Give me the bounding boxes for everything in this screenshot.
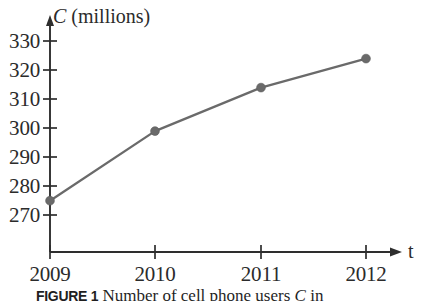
- x-axis-title: t: [408, 241, 414, 261]
- x-tick-label-2009: 2009: [10, 264, 90, 285]
- y-tick-label-270: 270: [0, 205, 40, 226]
- y-axis-title-variable: C: [53, 5, 66, 27]
- figure-caption-label: FIGURE 1: [36, 288, 98, 301]
- data-series-line: [50, 59, 366, 201]
- y-tick-label-320: 320: [0, 60, 40, 81]
- y-tick-label-290: 290: [0, 147, 40, 168]
- x-axis-arrowhead: [390, 248, 402, 257]
- figure-caption-variable: C: [295, 286, 306, 301]
- figure-caption: FIGURE 1 Number of cell phone users C in: [36, 286, 422, 301]
- figure-caption-text: Number of cell phone users: [102, 286, 290, 301]
- figure-container: C (millions) t 330 320 310 300 290 280 2…: [0, 0, 422, 301]
- data-point-2011: [257, 83, 266, 92]
- y-tick-label-330: 330: [0, 31, 40, 52]
- data-point-2009: [46, 196, 55, 205]
- figure-caption-tail: in: [310, 286, 323, 301]
- y-axis-title: C (millions): [53, 6, 150, 26]
- y-tick-label-300: 300: [0, 118, 40, 139]
- y-tick-label-280: 280: [0, 176, 40, 197]
- x-tick-label-2012: 2012: [326, 264, 406, 285]
- data-point-2010: [151, 127, 160, 136]
- x-tick-label-2010: 2010: [115, 264, 195, 285]
- x-tick-label-2011: 2011: [221, 264, 301, 285]
- chart-canvas: [0, 0, 422, 301]
- data-point-2012: [362, 54, 371, 63]
- y-axis-title-units: (millions): [71, 5, 150, 27]
- y-tick-label-310: 310: [0, 89, 40, 110]
